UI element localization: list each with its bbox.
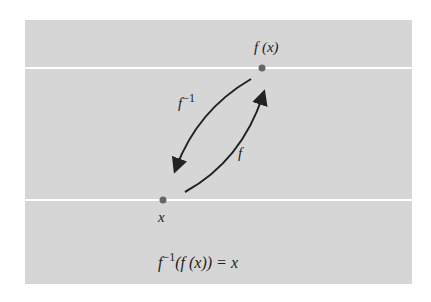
label-x: x — [157, 209, 165, 225]
label-forward: f — [238, 145, 244, 161]
equation: f−1(f (x)) = x — [158, 250, 238, 272]
label-fx: f (x) — [254, 39, 279, 56]
inverse-function-diagram: f (x) x f−1 f f−1(f (x)) = x — [0, 0, 431, 302]
forward-arrow — [185, 95, 263, 192]
label-inverse: f−1 — [178, 91, 195, 111]
point-x — [160, 197, 167, 204]
point-fx — [259, 65, 266, 72]
